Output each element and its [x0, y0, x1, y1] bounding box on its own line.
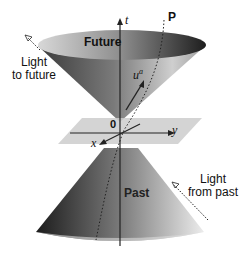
- light-to-future-arrow: [25, 35, 40, 50]
- light-from-past-line2: from past: [188, 186, 238, 199]
- y-axis-label: y: [172, 124, 177, 137]
- spatial-plane: [58, 118, 202, 144]
- four-velocity-superscript: a: [139, 67, 143, 76]
- light-to-future-label: Light to future: [12, 56, 56, 82]
- light-cone-diagram: [0, 0, 245, 256]
- future-label: Future: [84, 36, 121, 49]
- past-label: Past: [124, 187, 149, 200]
- t-axis-label: t: [125, 14, 128, 27]
- light-from-past-label: Light from past: [188, 173, 238, 199]
- light-to-future-line2: to future: [12, 69, 56, 82]
- x-axis-label: x: [91, 137, 96, 150]
- point-p-label: P: [168, 11, 176, 24]
- origin-label: 0: [110, 118, 116, 130]
- four-velocity-label: ua: [133, 68, 143, 82]
- future-cone: [38, 30, 206, 122]
